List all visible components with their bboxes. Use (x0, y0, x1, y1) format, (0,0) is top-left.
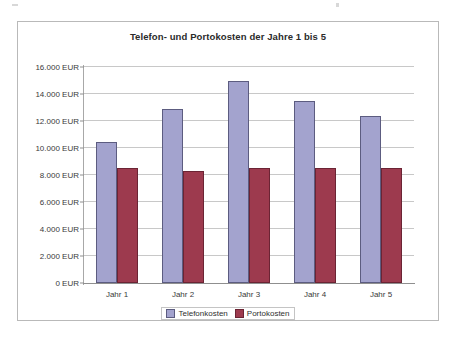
legend-label: Telefonkosten (178, 309, 227, 318)
y-axis-tick-label: 4.000 EUR (40, 225, 79, 234)
bar-telefonkosten[interactable] (294, 101, 315, 283)
y-axis-tick-label: 14.000 EUR (35, 90, 79, 99)
bar-portokosten[interactable] (117, 168, 138, 283)
bar-portokosten[interactable] (315, 168, 336, 283)
chart-legend: TelefonkostenPortokosten (18, 307, 438, 320)
bar-group: Jahr 4 (282, 67, 348, 283)
x-axis-tick-label: Jahr 2 (150, 290, 216, 299)
y-axis-tick-label: 16.000 EUR (35, 63, 79, 72)
bar-telefonkosten[interactable] (162, 109, 183, 283)
legend-label: Portokosten (247, 309, 290, 318)
bar-groups: Jahr 1Jahr 2Jahr 3Jahr 4Jahr 5 (84, 67, 414, 283)
y-axis-tick-label: 8.000 EUR (40, 171, 79, 180)
bar-group: Jahr 1 (84, 67, 150, 283)
y-axis-tick-label: 2.000 EUR (40, 252, 79, 261)
x-axis-tick-label: Jahr 5 (348, 290, 414, 299)
bar-group: Jahr 2 (150, 67, 216, 283)
bar-portokosten[interactable] (381, 168, 402, 283)
bar-telefonkosten[interactable] (228, 81, 249, 284)
scan-artifact (336, 3, 339, 7)
chart-title: Telefon- und Portokosten der Jahre 1 bis… (18, 31, 438, 42)
scan-artifact (12, 4, 18, 6)
y-axis-tick-label: 0 EUR (55, 279, 79, 288)
bar-group: Jahr 3 (216, 67, 282, 283)
chart-container: Telefon- und Portokosten der Jahre 1 bis… (17, 21, 439, 321)
bar-telefonkosten[interactable] (360, 116, 381, 283)
legend-swatch-icon (166, 309, 175, 318)
page-background (0, 0, 457, 14)
legend-swatch-icon (235, 309, 244, 318)
y-axis-tick-label: 6.000 EUR (40, 198, 79, 207)
bar-group: Jahr 5 (348, 67, 414, 283)
plot-area: 0 EUR2.000 EUR4.000 EUR6.000 EUR8.000 EU… (84, 67, 414, 283)
legend-item[interactable]: Telefonkosten (166, 309, 227, 318)
y-axis-tick-label: 10.000 EUR (35, 144, 79, 153)
bar-portokosten[interactable] (249, 168, 270, 283)
x-axis-tick-label: Jahr 4 (282, 290, 348, 299)
x-axis-line (83, 283, 415, 284)
x-axis-tick-label: Jahr 3 (216, 290, 282, 299)
bar-portokosten[interactable] (183, 171, 204, 283)
legend-box: TelefonkostenPortokosten (161, 307, 294, 320)
bar-telefonkosten[interactable] (96, 142, 117, 283)
y-axis-tick-label: 12.000 EUR (35, 117, 79, 126)
legend-item[interactable]: Portokosten (235, 309, 290, 318)
x-axis-tick-label: Jahr 1 (84, 290, 150, 299)
